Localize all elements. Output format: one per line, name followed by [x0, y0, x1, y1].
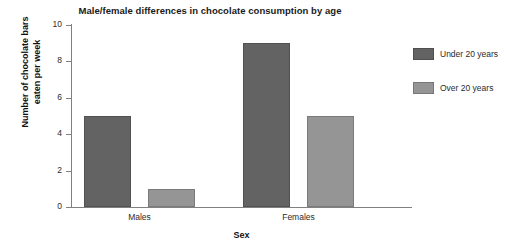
legend-label: Under 20 years	[440, 49, 498, 59]
bar	[84, 116, 131, 207]
chart-screenshot: Male/female differences in chocolate con…	[0, 0, 509, 247]
x-axis-line	[71, 207, 412, 208]
y-axis-tick-label: 10	[38, 20, 62, 29]
y-axis-tick-label: 2	[38, 166, 62, 175]
chart-title: Male/female differences in chocolate con…	[0, 5, 420, 16]
plot-area	[72, 25, 411, 207]
x-axis-category-label: Females	[259, 212, 339, 222]
legend-item: Under 20 years	[413, 47, 498, 60]
x-axis-title: Sex	[71, 230, 412, 240]
y-axis-tick-label: 6	[38, 93, 62, 102]
x-axis-category-label: Males	[100, 212, 180, 222]
y-axis-tick	[66, 207, 72, 208]
bar	[307, 116, 354, 207]
y-axis-tick-label: 8	[38, 56, 62, 65]
bar	[148, 189, 195, 207]
legend-swatch	[413, 48, 434, 60]
bar	[243, 43, 290, 207]
y-axis-tick-label: 0	[38, 202, 62, 211]
legend-item: Over 20 years	[413, 81, 498, 94]
legend-label: Over 20 years	[440, 83, 493, 93]
legend-swatch	[413, 82, 434, 94]
y-axis-tick-label: 4	[38, 129, 62, 138]
y-axis-title-line1: Number of chocolate bars	[20, 16, 30, 127]
chart-legend: Under 20 yearsOver 20 years	[413, 47, 498, 115]
